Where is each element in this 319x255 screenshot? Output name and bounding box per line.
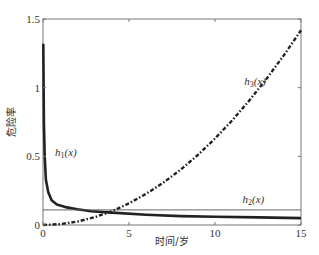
x-tick-label: 0 bbox=[40, 227, 46, 239]
x-tick-label: 15 bbox=[296, 227, 308, 239]
y-tick-label: 1.5 bbox=[26, 13, 40, 25]
tick-layer: 05101500.511.5 bbox=[26, 13, 307, 239]
y-tick-label: 0.5 bbox=[26, 150, 40, 162]
annotation-layer: h1(x)h2(x)h3(x) bbox=[55, 75, 266, 207]
hazard-rate-chart: 05101500.511.5 h1(x)h2(x)h3(x) 时间/岁 危险率 bbox=[0, 0, 319, 255]
y-axis-label: 危险率 bbox=[5, 107, 17, 137]
series-line-h1x bbox=[43, 44, 301, 218]
y-tick-label: 1 bbox=[35, 82, 41, 94]
y-tick-label: 0 bbox=[35, 219, 41, 231]
series-label-h3x: h3(x) bbox=[244, 75, 266, 89]
x-axis-label: 时间/岁 bbox=[155, 235, 188, 247]
series-label-h2x: h2(x) bbox=[243, 193, 265, 207]
x-tick-label: 10 bbox=[210, 227, 222, 239]
series-label-h1x: h1(x) bbox=[55, 146, 77, 160]
x-tick-label: 5 bbox=[126, 227, 132, 239]
